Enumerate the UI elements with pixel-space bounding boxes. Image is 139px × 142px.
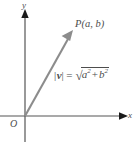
- arrow-up-icon: [21, 9, 28, 18]
- origin-label: O: [10, 119, 17, 129]
- vector-arrow-icon: [62, 30, 73, 41]
- equals-sign: =: [66, 69, 72, 81]
- point-label: P(a, b): [75, 19, 104, 30]
- exponent-a: 2: [87, 67, 91, 75]
- radical-expression: √a2+b2: [75, 68, 109, 82]
- plus-operator: +: [92, 68, 98, 80]
- vector-magnitude-figure: y x O P(a, b) |v|=√a2+b2: [0, 0, 139, 142]
- arrow-right-icon: [119, 112, 128, 119]
- x-axis-label: x: [128, 111, 132, 120]
- magnitude-formula: |v|=√a2+b2: [54, 68, 109, 82]
- magnitude-bar-right: |: [62, 69, 65, 81]
- radicand: a2+b2: [81, 67, 109, 80]
- y-axis-label: y: [22, 1, 26, 10]
- exponent-b: 2: [104, 67, 108, 75]
